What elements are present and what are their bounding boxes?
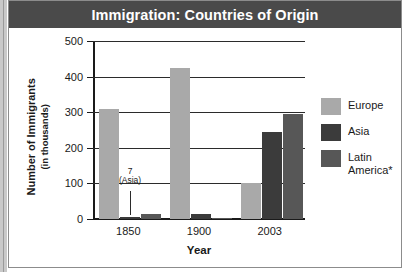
legend-item-europe: Europe (321, 98, 403, 115)
bar-asia-1900 (191, 214, 211, 219)
bar-latin-america-2003 (283, 114, 303, 219)
y-tick-label: 500 (65, 35, 83, 47)
legend-label-latin-line2: America* (348, 164, 393, 176)
y-tick-label: 100 (65, 177, 83, 189)
x-tick-label-2003: 2003 (257, 225, 281, 237)
y-tick-label: 0 (77, 213, 83, 225)
bar-latin-america-1900 (212, 218, 232, 220)
y-axis-tick (87, 77, 93, 78)
y-tick-label: 200 (65, 142, 83, 154)
legend-label-asia: Asia (348, 124, 369, 138)
legend-label-latin-america: LatinAmerica* (348, 150, 393, 177)
gridline (93, 77, 305, 78)
page-title: Immigration: Countries of Origin (91, 7, 318, 23)
y-axis-label: Number of Immigrants (in thousands) (25, 62, 51, 212)
bar-asia-1850 (120, 217, 140, 219)
annotation-label: (Asia) (113, 176, 147, 185)
x-tick-label-1850: 1850 (116, 225, 140, 237)
legend-label-europe: Europe (348, 98, 383, 112)
gridline (93, 41, 305, 42)
y-axis-label-sub: (in thousands) (39, 62, 51, 212)
y-axis-tick (87, 41, 93, 42)
legend-swatch-latin-america-icon (321, 150, 341, 167)
y-axis-tick (87, 148, 93, 149)
y-axis-line (93, 41, 95, 219)
plot-area: 0100200300400500 185019002003 7 (Asia) Y… (93, 41, 305, 219)
legend-swatch-asia-icon (321, 124, 341, 141)
chart-title-bar: Immigration: Countries of Origin (9, 1, 401, 28)
bar-europe-1900 (170, 68, 190, 219)
page-edge-artifact (0, 0, 7, 272)
y-axis-tick (87, 219, 93, 220)
legend-item-latin-america: LatinAmerica* (321, 150, 403, 177)
annotation-leader-line (130, 191, 131, 215)
plot-wrapper: Number of Immigrants (in thousands) 0100… (9, 28, 401, 267)
y-axis-tick (87, 183, 93, 184)
chart-page: Immigration: Countries of Origin Number … (0, 0, 408, 272)
page-edge-line (3, 0, 4, 272)
bar-latin-america-1850 (141, 214, 161, 219)
annotation-asia-1850: 7 (Asia) (113, 167, 147, 185)
gridline (93, 112, 305, 113)
figure-container: Immigration: Countries of Origin Number … (8, 0, 402, 268)
x-axis-label: Year (187, 244, 211, 256)
bar-europe-2003 (241, 183, 261, 219)
y-axis-tick (87, 112, 93, 113)
chart-legend: Europe Asia LatinAmerica* (321, 98, 403, 186)
x-tick-label-1900: 1900 (187, 225, 211, 237)
y-tick-label: 300 (65, 106, 83, 118)
legend-swatch-europe-icon (321, 98, 341, 115)
bar-asia-2003 (262, 132, 282, 219)
legend-label-latin-line1: Latin (348, 151, 372, 163)
bar-europe-1850 (99, 109, 119, 219)
y-tick-label: 400 (65, 71, 83, 83)
y-axis-label-main: Number of Immigrants (25, 78, 37, 195)
legend-item-asia: Asia (321, 124, 403, 141)
